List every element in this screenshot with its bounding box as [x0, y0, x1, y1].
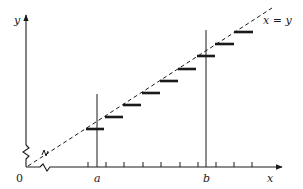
origin-label: 0	[16, 172, 23, 185]
boundary-verticals	[97, 30, 206, 167]
y-axis-label: y	[13, 14, 21, 27]
step-function-segments	[86, 32, 253, 129]
identity-line-label: x = y	[263, 14, 292, 27]
staircase-diagram: y x 0 a b x = y	[0, 0, 303, 189]
x-axis-label: x	[267, 172, 274, 185]
a-label: a	[94, 172, 101, 185]
y-axis	[23, 15, 29, 167]
x-axis	[26, 164, 282, 171]
b-label: b	[203, 172, 210, 185]
dashed-line-break-icon	[42, 150, 48, 156]
x-axis-ticks	[88, 162, 252, 167]
